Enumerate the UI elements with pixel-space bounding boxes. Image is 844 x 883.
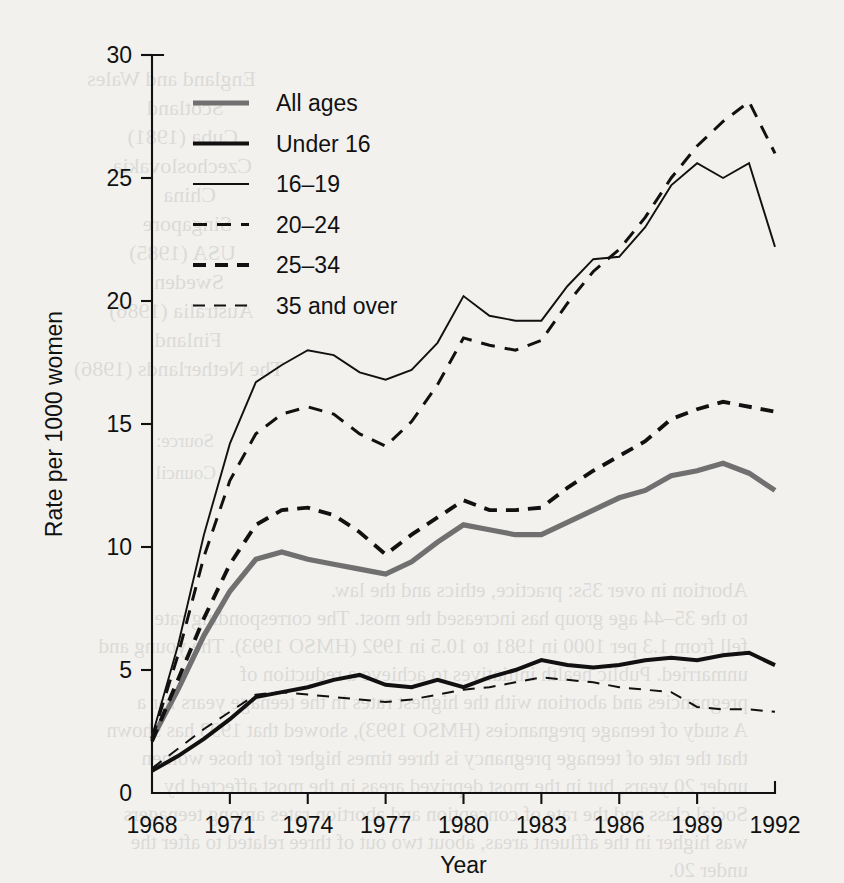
x-tick-label: 1971: [204, 812, 255, 838]
x-tick-label: 1968: [126, 812, 177, 838]
legend-label-1: Under 16: [276, 131, 371, 157]
x-axis-title: Year: [440, 852, 487, 878]
legend-layer: All agesUnder 1616–1920–2425–3435 and ov…: [193, 90, 398, 319]
legend-label-5: 35 and over: [276, 293, 398, 319]
legend-label-4: 25–34: [276, 252, 340, 278]
y-tick-label: 30: [106, 42, 132, 68]
y-tick-label: 15: [106, 411, 132, 437]
chart-canvas: All agesUnder 1616–1920–2425–3435 and ov…: [0, 0, 844, 883]
legend-label-2: 16–19: [276, 171, 340, 197]
y-axis-title: Rate per 1000 women: [41, 311, 67, 537]
series-line-5: [152, 677, 775, 768]
series-layer: [152, 102, 775, 771]
x-tick-label: 1992: [749, 812, 800, 838]
y-tick-label: 5: [119, 657, 132, 683]
abortion-rate-line-chart: All agesUnder 1616–1920–2425–3435 and ov…: [0, 0, 844, 883]
series-line-1: [152, 653, 775, 771]
labels-layer: 0510152025301968197119741977198019831986…: [41, 42, 801, 878]
series-line-0: [152, 463, 775, 739]
legend-label-0: All ages: [276, 90, 358, 116]
y-tick-label: 0: [119, 780, 132, 806]
x-tick-label: 1989: [672, 812, 723, 838]
legend-label-3: 20–24: [276, 212, 340, 238]
x-tick-label: 1974: [282, 812, 333, 838]
series-line-2: [152, 163, 775, 736]
y-tick-label: 25: [106, 165, 132, 191]
x-tick-label: 1983: [516, 812, 567, 838]
axis-frame: [152, 55, 775, 793]
series-line-3: [152, 102, 775, 739]
x-tick-label: 1977: [360, 812, 411, 838]
y-tick-label: 10: [106, 534, 132, 560]
y-tick-label: 20: [106, 288, 132, 314]
x-tick-label: 1986: [594, 812, 645, 838]
x-tick-label: 1980: [438, 812, 489, 838]
